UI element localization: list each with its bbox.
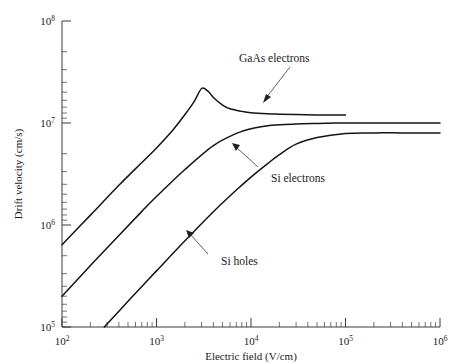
- data-curves: [62, 88, 440, 327]
- y-tick-label-3: 108: [40, 14, 55, 27]
- series-line-si-holes: [104, 133, 440, 327]
- y-tick-label-1: 106: [40, 218, 55, 231]
- leader-si-electrons: [236, 147, 258, 167]
- y-tick-label-2: 107: [40, 116, 55, 129]
- axes: [62, 21, 440, 327]
- x-tick-label-0: 102: [55, 334, 70, 347]
- annotation-gaas-electrons: GaAs electrons: [239, 52, 310, 64]
- x-tick-label-1: 103: [149, 334, 164, 347]
- drift-velocity-plot: 108 107 106 105 102 103 104 105 106 Elec…: [0, 0, 473, 364]
- annotation-si-electrons: Si electrons: [271, 172, 325, 184]
- y-tick-labels: 108 107 106 105: [40, 14, 55, 333]
- leader-gaas-electrons: [266, 67, 290, 98]
- x-tick-label-4: 106: [433, 334, 448, 347]
- arrowhead-gaas-electrons: [263, 94, 271, 103]
- leader-si-holes: [190, 234, 208, 254]
- series-line-si-electrons: [62, 123, 440, 296]
- x-tick-labels: 102 103 104 105 106: [55, 334, 448, 347]
- x-ticks: [62, 318, 440, 327]
- annotation-leaders: [186, 67, 290, 254]
- annotation-si-holes: Si holes: [221, 255, 258, 267]
- x-axis-title: Electric field (V/cm): [205, 350, 297, 363]
- x-tick-label-2: 104: [244, 334, 259, 347]
- y-axis-title: Drift velocity (cm/s): [12, 128, 25, 219]
- chart-figure: 108 107 106 105 102 103 104 105 106 Elec…: [0, 0, 473, 364]
- y-tick-label-0: 105: [40, 320, 55, 333]
- y-ticks: [62, 21, 71, 327]
- x-tick-label-3: 105: [338, 334, 353, 347]
